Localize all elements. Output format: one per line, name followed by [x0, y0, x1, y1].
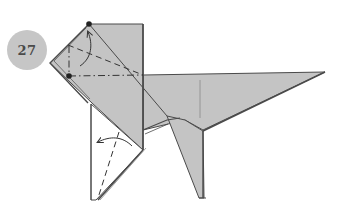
origami-diagram: [0, 0, 342, 210]
reference-dot-left-icon: [66, 73, 72, 79]
reference-dot-top-icon: [86, 21, 92, 27]
